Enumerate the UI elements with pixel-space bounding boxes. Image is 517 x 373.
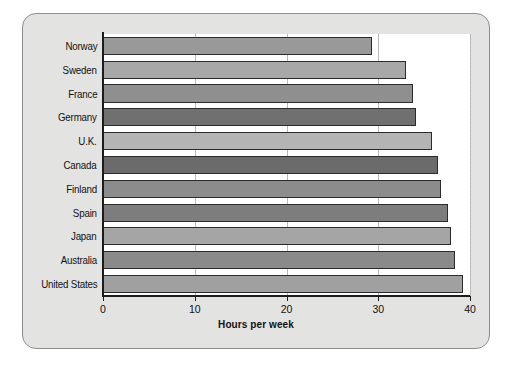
category-label: Sweden bbox=[63, 64, 97, 76]
x-tick-label: 20 bbox=[281, 303, 293, 315]
category-label: France bbox=[68, 88, 97, 100]
bar bbox=[103, 84, 413, 102]
x-axis-title: Hours per week bbox=[23, 319, 489, 330]
category-label: Spain bbox=[73, 207, 97, 219]
x-axis-line bbox=[102, 295, 470, 297]
category-label: U.K. bbox=[79, 135, 97, 147]
bar bbox=[103, 275, 463, 293]
bar-row: Norway bbox=[103, 37, 470, 55]
bar-row: Australia bbox=[103, 251, 470, 269]
bar bbox=[103, 61, 406, 79]
bar bbox=[103, 108, 416, 126]
bar-row: Finland bbox=[103, 180, 470, 198]
x-tick-label: 10 bbox=[189, 303, 201, 315]
bar-row: Canada bbox=[103, 156, 470, 174]
bar bbox=[103, 251, 455, 269]
category-label: United States bbox=[41, 278, 97, 290]
bar-row: Germany bbox=[103, 108, 470, 126]
category-label: Finland bbox=[66, 183, 97, 195]
bar-row: Sweden bbox=[103, 61, 470, 79]
y-axis-line bbox=[102, 32, 104, 297]
plot-wrapper: NorwaySwedenFranceGermanyU.K.CanadaFinla… bbox=[103, 34, 470, 296]
bar-row: France bbox=[103, 84, 470, 102]
category-label: Norway bbox=[65, 40, 97, 52]
x-tick-mark bbox=[470, 296, 471, 301]
bar-row: Japan bbox=[103, 227, 470, 245]
bar-row: Spain bbox=[103, 204, 470, 222]
bar-row: United States bbox=[103, 275, 470, 293]
gridline bbox=[470, 34, 471, 296]
x-tick-label: 0 bbox=[100, 303, 106, 315]
x-tick-label: 40 bbox=[464, 303, 476, 315]
category-label: Germany bbox=[58, 111, 97, 123]
category-label: Canada bbox=[64, 159, 97, 171]
category-label: Japan bbox=[71, 230, 97, 242]
bar bbox=[103, 37, 372, 55]
bar bbox=[103, 204, 448, 222]
bar bbox=[103, 132, 432, 150]
bar-row: U.K. bbox=[103, 132, 470, 150]
bar bbox=[103, 180, 441, 198]
x-tick-label: 30 bbox=[372, 303, 384, 315]
bar bbox=[103, 156, 438, 174]
bar bbox=[103, 227, 451, 245]
category-label: Australia bbox=[61, 254, 97, 266]
chart-panel: NorwaySwedenFranceGermanyU.K.CanadaFinla… bbox=[22, 13, 490, 349]
